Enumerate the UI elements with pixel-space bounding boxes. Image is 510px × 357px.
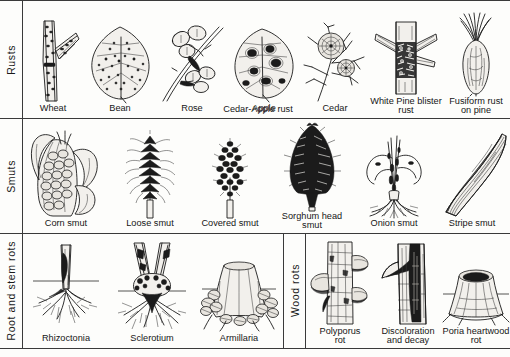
smuts-specimen-strip: Corn smut: [22, 119, 510, 233]
wheat-stem-rust-icon: [22, 1, 84, 104]
wood-rots-specimen-strip: Polyporus rot: [306, 234, 510, 348]
specimen-white-pine-blister-rust[interactable]: White Pine blister rust: [370, 1, 442, 118]
specimen-apple[interactable]: Apple: [228, 1, 300, 118]
caption-armillaria: Armillaria: [220, 334, 258, 348]
section-label-smuts: Smuts: [0, 119, 22, 233]
caption-cedar-apple-rust: Cedar-Apple rust: [196, 105, 320, 115]
bean-leaf-rust-icon: [84, 1, 156, 104]
corn-ear-smut-icon: [22, 119, 110, 219]
section-label-rusts-text: Rusts: [5, 45, 17, 75]
root-rots-specimen-strip: Rhizoctonia: [23, 234, 283, 348]
specimen-cedar[interactable]: Cedar: [300, 1, 370, 118]
caption-sorghum-head-smut: Sorghum head smut: [282, 212, 342, 233]
specimen-loose-smut[interactable]: Loose smut: [110, 119, 190, 233]
section-label-root-and-stem-rots: Root and stem rots: [0, 234, 22, 348]
rusts-specimen-strip: Wheat: [22, 1, 510, 118]
section-label-wood-rots: Wood rots: [284, 234, 305, 348]
loose-smut-head-icon: [110, 119, 190, 219]
specimen-fusiform-rust-on-pine[interactable]: Fusiform rust on pine: [442, 1, 510, 118]
section-rusts: Rusts: [0, 1, 510, 118]
section-label-smuts-text: Smuts: [5, 160, 17, 193]
specimen-armillaria[interactable]: Armillaria: [195, 234, 283, 348]
specimen-discoloration-and-decay[interactable]: Discoloration and decay: [374, 234, 442, 348]
specimen-covered-smut[interactable]: Covered smut: [190, 119, 270, 233]
sorghum-head-smut-icon: [270, 119, 354, 212]
specimen-onion-smut[interactable]: Onion smut: [354, 119, 434, 233]
specimen-stripe-smut[interactable]: Stripe smut: [434, 119, 510, 233]
disease-chart-figure: Rusts: [0, 0, 510, 357]
caption-covered-smut: Covered smut: [201, 219, 258, 233]
hollow-stump-icon: [442, 234, 510, 327]
armillaria-stump-icon: [195, 234, 283, 334]
sclerotium-crown-rot-icon: [109, 234, 195, 334]
caption-loose-smut: Loose smut: [126, 219, 174, 233]
section-label-root-and-stem-rots-text: Root and stem rots: [5, 241, 17, 341]
caption-rhizoctonia: Rhizoctonia: [42, 334, 90, 348]
caption-onion-smut: Onion smut: [371, 219, 418, 233]
specimen-corn-smut[interactable]: Corn smut: [22, 119, 110, 233]
caption-stripe-smut: Stripe smut: [449, 219, 495, 233]
covered-smut-head-icon: [190, 119, 270, 219]
caption-poria-heartwood-rot: Poria heartwood rot: [443, 327, 510, 348]
onion-seedling-smut-icon: [354, 119, 434, 219]
striped-leaf-smut-icon: [434, 119, 510, 219]
trunk-discoloration-icon: [374, 234, 442, 327]
specimen-sclerotium[interactable]: Sclerotium: [109, 234, 195, 348]
caption-wheat: Wheat: [40, 104, 67, 118]
cedar-gall-rust-icon: [300, 1, 370, 104]
caption-corn-smut: Corn smut: [45, 219, 87, 233]
section-label-wood-rots-text: Wood rots: [289, 264, 301, 317]
specimen-rhizoctonia[interactable]: Rhizoctonia: [23, 234, 109, 348]
caption-white-pine-blister-rust: White Pine blister rust: [370, 97, 442, 118]
specimen-bean[interactable]: Bean: [84, 1, 156, 118]
caption-bean: Bean: [109, 104, 130, 118]
rhizoctonia-stem-lesion-icon: [23, 234, 109, 334]
section-smuts: Smuts: [0, 119, 510, 233]
section-rots-row: Root and stem rots: [0, 234, 510, 348]
apple-leaf-rust-icon: [228, 1, 300, 104]
specimen-rose[interactable]: Rose: [156, 1, 228, 118]
specimen-sorghum-head-smut[interactable]: Sorghum head smut: [270, 119, 354, 233]
specimen-polyporus-rot[interactable]: Polyporus rot: [306, 234, 374, 348]
fusiform-gall-icon: [442, 1, 510, 97]
caption-polyporus-rot: Polyporus rot: [320, 327, 361, 348]
caption-cedar: Cedar: [322, 104, 347, 118]
pine-blister-canker-icon: [370, 1, 442, 97]
caption-fusiform-rust-on-pine: Fusiform rust on pine: [449, 97, 503, 118]
section-label-rusts: Rusts: [0, 1, 22, 118]
caption-discoloration-and-decay: Discoloration and decay: [381, 327, 434, 348]
specimen-wheat[interactable]: Wheat: [22, 1, 84, 118]
rose-cane-rust-icon: [156, 1, 228, 104]
caption-sclerotium: Sclerotium: [130, 334, 173, 348]
frame-bottom-rule: [0, 348, 510, 349]
specimen-poria-heartwood-rot[interactable]: Poria heartwood rot: [442, 234, 510, 348]
polyporus-conk-trunk-icon: [306, 234, 374, 327]
